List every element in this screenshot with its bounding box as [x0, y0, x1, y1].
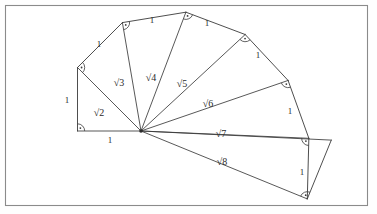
unit-label-left: 1 — [65, 95, 70, 105]
right-angle-mark-8-dot — [305, 194, 307, 196]
right-angle-mark-2-dot — [81, 67, 83, 69]
root-label-5: √5 — [177, 78, 188, 89]
diagram-canvas: 11111111 √2√3√4√5√6√7√8 — [0, 0, 377, 214]
spiral-of-theodorus-figure: 11111111 √2√3√4√5√6√7√8 — [0, 0, 377, 214]
root-label-4: √4 — [146, 72, 157, 83]
unit-label-7: 1 — [300, 167, 305, 177]
unit-label-4: 1 — [205, 18, 210, 28]
root-label-2: √2 — [94, 107, 105, 118]
unit-label-2: 1 — [97, 39, 102, 49]
right-angle-mark-5-dot — [244, 38, 246, 40]
hub-point — [139, 129, 143, 133]
root-label-7: √7 — [216, 128, 227, 139]
unit-label-base: 1 — [108, 135, 113, 145]
right-angle-mark-3-dot — [125, 24, 127, 26]
root-label-8: √8 — [217, 156, 228, 167]
unit-label-3: 1 — [150, 15, 155, 25]
right-angle-mark-4-dot — [187, 15, 189, 17]
root-label-3: √3 — [114, 77, 125, 88]
right-angle-mark-6-dot — [285, 83, 287, 85]
right-angle-mark-7-dot — [305, 140, 307, 142]
unit-label-6: 1 — [288, 106, 293, 116]
figure-border — [6, 6, 368, 206]
unit-label-5: 1 — [256, 50, 261, 60]
right-angle-mark-1-dot — [79, 127, 81, 129]
root-label-6: √6 — [203, 98, 214, 109]
